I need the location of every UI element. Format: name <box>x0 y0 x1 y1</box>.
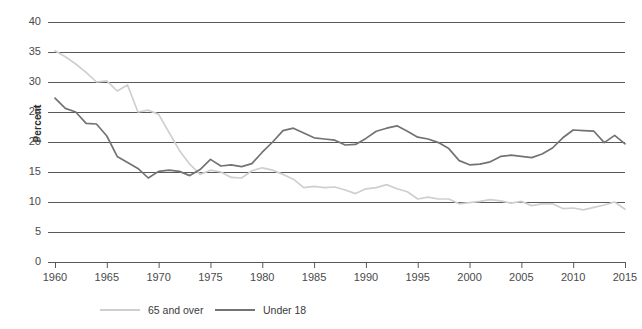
x-tick-label: 1990 <box>346 272 386 283</box>
x-tick-label: 1995 <box>398 272 438 283</box>
y-tick-label: 15 <box>15 166 41 177</box>
y-tick-label: 0 <box>15 256 41 267</box>
x-tick-label: 1970 <box>139 272 179 283</box>
legend-swatch-icon <box>100 309 140 311</box>
y-tick-label: 30 <box>15 76 41 87</box>
legend-label: 65 and over <box>148 304 203 316</box>
legend-item-65-and-over[interactable]: 65 and over <box>100 304 203 316</box>
legend-label: Under 18 <box>263 304 306 316</box>
series-line-under-18 <box>55 98 625 178</box>
x-tick-label: 1985 <box>294 272 334 283</box>
y-tick-label: 35 <box>15 46 41 57</box>
gridlines <box>55 23 625 233</box>
axis-tick-marks <box>48 23 626 269</box>
x-tick-label: 2005 <box>501 272 541 283</box>
legend-item-under-18[interactable]: Under 18 <box>215 304 306 316</box>
y-tick-label: 20 <box>15 136 41 147</box>
y-tick-label: 40 <box>15 16 41 27</box>
x-tick-label: 1960 <box>35 272 75 283</box>
x-tick-label: 2015 <box>605 272 642 283</box>
y-tick-label: 5 <box>15 226 41 237</box>
x-tick-label: 1980 <box>242 272 282 283</box>
y-tick-label: 25 <box>15 106 41 117</box>
legend-swatch-icon <box>215 309 255 311</box>
chart-legend: 65 and overUnder 18 <box>0 300 636 324</box>
data-series-lines <box>55 51 625 210</box>
series-line-65-and-over <box>55 51 625 210</box>
y-axis-title: Percent <box>32 89 43 159</box>
x-tick-label: 1975 <box>190 272 230 283</box>
y-tick-label: 10 <box>15 196 41 207</box>
x-tick-label: 2000 <box>450 272 490 283</box>
x-tick-label: 2010 <box>553 272 593 283</box>
x-tick-label: 1965 <box>87 272 127 283</box>
